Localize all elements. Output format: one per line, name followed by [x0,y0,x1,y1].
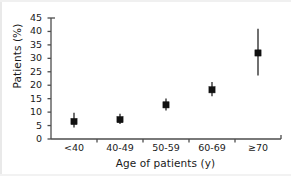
data-point-marker [71,118,77,124]
plot-area [0,0,291,176]
data-series-group [71,29,261,128]
chart-figure: Patients (%) Age of patients (y) 0510152… [0,0,291,176]
data-point-marker [163,102,169,108]
data-point-marker [117,117,123,123]
data-point-marker [255,50,261,56]
axes-group [48,18,282,143]
data-point-marker [209,87,215,93]
